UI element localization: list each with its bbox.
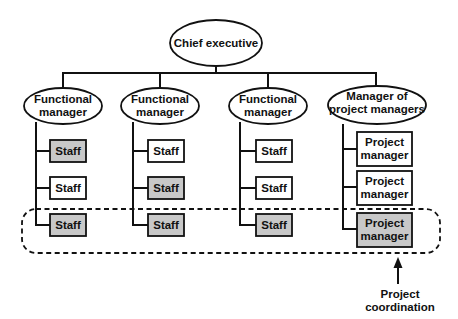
manager-label-line1: Functional xyxy=(34,93,92,105)
svg-text:Project: Project xyxy=(365,175,404,187)
staff-box: Staff xyxy=(50,177,86,199)
staff-box: Staff xyxy=(256,177,292,199)
manager-label-line2: manager xyxy=(39,106,87,118)
manager-label-line1: Functional xyxy=(131,93,189,105)
svg-text:manager: manager xyxy=(361,149,409,161)
svg-text:Staff: Staff xyxy=(261,219,287,231)
svg-text:Staff: Staff xyxy=(261,182,287,194)
svg-text:manager: manager xyxy=(361,230,409,242)
staff-box: Staff xyxy=(256,214,292,236)
org-chart-diagram: Chief executive Functional manager Funct… xyxy=(0,0,458,319)
staff-box: Staff xyxy=(256,140,292,162)
svg-text:manager: manager xyxy=(361,188,409,200)
svg-text:Staff: Staff xyxy=(55,182,81,194)
functional-manager-node-2: Functional manager xyxy=(121,88,199,124)
manager-label-line1: Manager of xyxy=(346,90,408,102)
project-manager-box: Project manager xyxy=(357,132,412,166)
svg-text:Staff: Staff xyxy=(55,219,81,231)
staff-box: Staff xyxy=(50,214,86,236)
staff-box: Staff xyxy=(50,140,86,162)
functional-manager-node-1: Functional manager xyxy=(24,88,102,124)
svg-text:Staff: Staff xyxy=(153,145,179,157)
annotation-line1: Project xyxy=(381,288,420,300)
manager-of-project-managers-node: Manager of project managers xyxy=(328,86,426,124)
manager-label-line2: manager xyxy=(136,106,184,118)
project-manager-box: Project manager xyxy=(357,171,412,205)
svg-text:Staff: Staff xyxy=(55,145,81,157)
arrow-up-icon xyxy=(394,257,403,284)
svg-text:Staff: Staff xyxy=(261,145,287,157)
manager-label-line1: Functional xyxy=(239,93,297,105)
functional-manager-node-3: Functional manager xyxy=(229,88,307,124)
svg-text:Staff: Staff xyxy=(153,182,179,194)
chief-executive-label: Chief executive xyxy=(174,37,258,49)
svg-text:Project: Project xyxy=(365,136,404,148)
manager-label-line2: project managers xyxy=(329,103,425,115)
chief-executive-node: Chief executive xyxy=(170,20,262,66)
staff-box: Staff xyxy=(148,177,184,199)
annotation-line2: coordination xyxy=(365,301,435,313)
manager-label-line2: manager xyxy=(244,106,292,118)
svg-text:Staff: Staff xyxy=(153,219,179,231)
staff-box: Staff xyxy=(148,140,184,162)
svg-text:Project: Project xyxy=(365,217,404,229)
project-manager-box: Project manager xyxy=(357,213,412,247)
staff-box: Staff xyxy=(148,214,184,236)
